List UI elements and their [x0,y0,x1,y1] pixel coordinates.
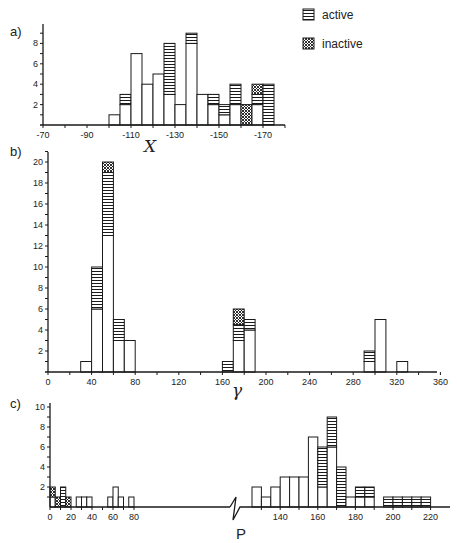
y-tick-label: 8 [40,422,45,432]
bar-segment-inactive [66,497,71,507]
bar-segment-white [375,320,386,373]
bar-segment-white [103,236,114,373]
inactive-swatch-icon [303,38,314,49]
legend-label-active: active [322,8,354,22]
bar-segment-inactive [252,84,263,94]
panel-c-histogram: 246810020406080140160180200220 [35,402,450,522]
y-tick-label: 6 [38,304,43,314]
bar-segment-white [186,43,197,125]
x-tick-label: 120 [171,377,186,387]
bar-segment-white [76,497,81,507]
histogram-bar [364,351,375,372]
bar-segment-inactive [50,487,55,497]
bar-segment-active [364,351,375,362]
x-tick-label: -170 [254,130,272,140]
bar-segment-white [82,497,87,507]
y-tick-label: 4 [38,325,43,335]
bar-segment-active [164,43,175,94]
bar-segment-white [92,309,103,372]
bar-segment-white [290,477,299,507]
bar-segment-white [124,341,135,373]
bar-segment-white [87,497,92,507]
histogram-bar [186,33,197,125]
legend: active inactive [303,8,363,51]
bar-segment-inactive [233,309,244,325]
histogram-bar [208,94,219,125]
bar-segment-white [355,497,364,507]
bar-segment-active [230,84,241,104]
bar-segment-white [230,105,241,125]
histogram-bar [129,497,134,507]
histogram-bar [81,362,92,373]
x-tick-label: -110 [122,130,139,140]
histogram-bar [175,105,186,125]
x-tick-label: 160 [310,512,325,522]
panel-b-histogram: 2468101214161820040801201602002402803203… [33,152,448,388]
x-tick-label: 80 [129,512,139,522]
x-tick-label: -150 [210,130,228,140]
bar-segment-white [50,497,55,507]
bar-segment-white [197,94,208,125]
bar-segment-white [153,74,164,125]
x-tick-label: 40 [87,377,97,387]
bar-segment-white [142,84,153,125]
histogram-bar [308,437,317,507]
histogram-bar [355,487,364,507]
histogram-bar [261,497,270,507]
y-tick-label: 16 [33,199,43,209]
bar-segment-white [219,115,230,125]
bar-segment-white [299,477,308,507]
y-tick-label: 6 [33,59,38,69]
x-tick-label: 200 [258,377,273,387]
histogram-bar [244,320,255,373]
y-tick-label: 8 [38,283,43,293]
panel-c-label: c) [10,396,21,411]
x-tick-label: 220 [423,512,438,522]
bar-segment-white [308,437,317,507]
x-tick-label: -90 [80,130,93,140]
histogram-bar [108,497,113,507]
panel-a-label: a) [10,24,22,39]
bar-segment-white [175,105,186,125]
bar-segment-white [120,105,131,125]
histogram-bar [103,162,114,372]
bar-segment-inactive [241,105,252,125]
histogram-bar [421,497,430,507]
histogram-bar [393,497,402,507]
histogram-bar [197,94,208,125]
y-tick-label: 14 [33,220,43,230]
bar-segment-active [384,497,393,507]
bar-segment-active [244,320,255,331]
histogram-bar [280,477,289,507]
y-tick-label: 10 [33,262,43,272]
x-tick-label: 0 [47,512,52,522]
bar-segment-active [421,497,430,507]
histogram-bar [50,487,55,507]
legend-label-inactive: inactive [322,37,363,51]
histogram-bar [113,320,124,373]
y-tick-label: 8 [33,38,38,48]
bar-segment-white [131,54,142,125]
bar-segment-white [346,497,355,507]
bar-segment-active [263,84,274,125]
histogram-bar [76,497,81,507]
histogram-bar [124,341,135,373]
y-tick-label: 6 [40,442,45,452]
panel-b-label: b) [10,144,22,159]
x-tick-label: 0 [45,377,50,387]
x-tick-label: 60 [108,512,118,522]
x-tick-label: 180 [348,512,363,522]
bar-segment-white [327,447,336,507]
bar-segment-white [364,362,375,373]
x-tick-label: 160 [215,377,230,387]
histogram-bar [365,487,374,507]
bar-segment-white [81,362,92,373]
histogram-bar [153,74,164,125]
histogram-bar [263,84,274,125]
bar-segment-white [252,105,263,125]
histogram-bar [120,94,131,125]
bar-segment-white [109,115,120,125]
bar-segment-white [118,497,123,507]
bar-segment-active [412,497,421,507]
bar-segment-white [252,487,261,507]
